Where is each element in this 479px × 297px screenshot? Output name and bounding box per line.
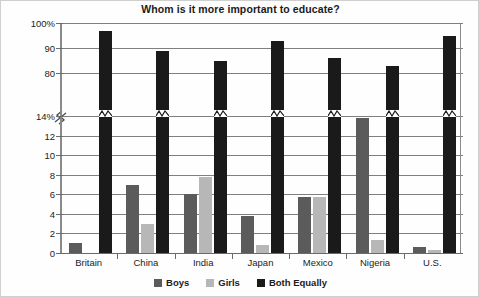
x-axis-labels: BritainChinaIndiaJapanMexicoNigeriaU.S. <box>60 257 461 273</box>
bar-girls[interactable] <box>199 177 212 253</box>
plot-area <box>60 23 461 253</box>
bar-break-notch <box>156 110 169 117</box>
bar-both-equally[interactable] <box>443 36 456 254</box>
bar-boys[interactable] <box>298 197 311 253</box>
bars-layer <box>62 23 463 253</box>
bar-break-notch <box>99 110 112 117</box>
bar-break-notch <box>386 110 399 117</box>
y-tick-label: 6 <box>3 189 55 200</box>
x-tick-label: China <box>134 257 159 268</box>
chart-title: Whom is it more important to educate? <box>1 3 479 15</box>
x-tick-label: Nigeria <box>360 257 390 268</box>
y-tick-label: 0 <box>3 248 55 259</box>
legend-item[interactable]: Girls <box>206 277 240 288</box>
y-tick-label: 4 <box>3 208 55 219</box>
bar-both-equally[interactable] <box>99 31 112 254</box>
legend-label: Girls <box>218 277 240 288</box>
chart-legend: BoysGirlsBoth Equally <box>1 277 479 288</box>
y-tick-label: 10 <box>3 150 55 161</box>
bar-boys[interactable] <box>184 194 197 253</box>
bar-group <box>69 23 112 253</box>
bar-boys[interactable] <box>126 185 139 254</box>
bar-group <box>356 23 399 253</box>
chart-container: Whom is it more important to educate? 10… <box>0 0 479 297</box>
bar-break-notch <box>214 110 227 117</box>
x-tick-label: Mexico <box>303 257 333 268</box>
bar-both-equally[interactable] <box>214 61 227 254</box>
bar-boys[interactable] <box>241 216 254 253</box>
y-tick-label: 80 <box>3 68 55 79</box>
y-tick-label: 8 <box>3 169 55 180</box>
legend-item[interactable]: Boys <box>154 277 189 288</box>
bar-break-notch <box>271 110 284 117</box>
y-tick-label: 90 <box>3 43 55 54</box>
legend-swatch-icon <box>154 279 162 287</box>
bar-girls[interactable] <box>256 245 269 253</box>
bar-group <box>241 23 284 253</box>
bar-break-notch <box>328 110 341 117</box>
bar-boys[interactable] <box>356 118 369 253</box>
x-tick-label: U.S. <box>423 257 441 268</box>
y-tick-label: 2 <box>3 228 55 239</box>
y-tick-label: 14% <box>3 111 55 122</box>
x-tick-label: Japan <box>248 257 274 268</box>
bar-boys[interactable] <box>69 243 82 253</box>
bar-both-equally[interactable] <box>328 58 341 253</box>
y-tick-label: 100% <box>3 18 55 29</box>
bar-both-equally[interactable] <box>156 51 169 254</box>
bar-girls[interactable] <box>141 224 154 253</box>
bar-both-equally[interactable] <box>386 66 399 254</box>
bar-group <box>413 23 456 253</box>
bar-group <box>126 23 169 253</box>
x-tick-label: India <box>193 257 214 268</box>
legend-item[interactable]: Both Equally <box>257 277 327 288</box>
legend-swatch-icon <box>206 279 214 287</box>
y-tick-label: 12 <box>3 130 55 141</box>
bar-both-equally[interactable] <box>271 41 284 254</box>
bar-group <box>298 23 341 253</box>
legend-swatch-icon <box>257 279 265 287</box>
bar-group <box>184 23 227 253</box>
bar-girls[interactable] <box>371 240 384 253</box>
legend-label: Boys <box>166 277 189 288</box>
legend-label: Both Equally <box>269 277 327 288</box>
y-axis-labels: 100%908014%121086420 <box>1 23 55 253</box>
bar-girls[interactable] <box>313 197 326 253</box>
x-tick-label: Britain <box>75 257 102 268</box>
bar-break-notch <box>443 110 456 117</box>
